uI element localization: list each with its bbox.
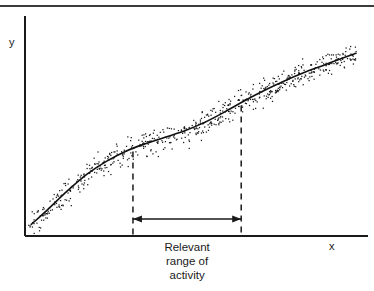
y-axis-label: y: [9, 37, 15, 48]
caption-line-2: range of: [136, 254, 238, 268]
relevant-range-caption: Relevant range of activity: [136, 240, 238, 282]
x-axis-label: x: [329, 241, 335, 252]
relevant-range-marker: [133, 106, 241, 236]
caption-line-1: Relevant: [136, 240, 238, 254]
figure-container: y x Relevant range of activity: [0, 0, 374, 291]
range-arrow-head-right: [232, 215, 241, 222]
range-arrow-head-left: [133, 215, 142, 222]
fitted-regression-curve: [31, 53, 356, 224]
caption-line-3: activity: [136, 268, 238, 282]
scatter-point-cloud: [28, 46, 357, 234]
